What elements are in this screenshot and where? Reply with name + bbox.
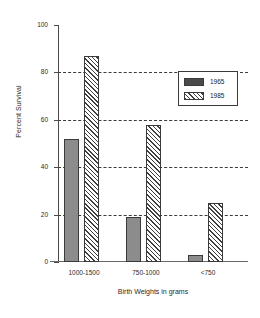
y-tick-label-80: 80 xyxy=(41,69,48,76)
legend-label-1965: 1965 xyxy=(210,78,224,85)
y-axis-line xyxy=(58,25,59,262)
bar-1985-1000-1500 xyxy=(84,56,99,262)
bar-chart: Percent Survival 100 80 60 40 20 0 xyxy=(0,0,260,318)
y-tick-label-60: 60 xyxy=(41,117,48,124)
bar-1965-under-750 xyxy=(188,255,203,262)
y-tick-label-40: 40 xyxy=(41,164,48,171)
bar-1985-750-1000 xyxy=(146,125,161,262)
hatched-swatch-icon xyxy=(184,92,204,100)
x-category-label-750-1000: 750-1000 xyxy=(116,269,176,276)
x-category-label-under-750: <750 xyxy=(178,269,238,276)
legend-label-1985: 1985 xyxy=(210,92,224,99)
legend-entry-1965: 1965 xyxy=(184,76,233,87)
y-tick-label-0: 0 xyxy=(44,259,48,266)
x-axis-title: Birth Weights in grams xyxy=(58,288,248,295)
y-tick-40: 40 xyxy=(54,167,59,168)
y-tick-label-100: 100 xyxy=(37,22,48,29)
legend-entry-1985: 1985 xyxy=(184,90,233,101)
plot-area: 100 80 60 40 20 0 1000-1500 xyxy=(58,25,248,262)
y-tick-label-20: 20 xyxy=(41,211,48,218)
y-tick-100: 100 xyxy=(54,25,59,26)
solid-swatch-icon xyxy=(184,78,204,86)
y-tick-60: 60 xyxy=(54,120,59,121)
y-tick-80: 80 xyxy=(54,72,59,73)
bar-1965-1000-1500 xyxy=(64,139,79,262)
bar-1965-750-1000 xyxy=(126,217,141,262)
y-tick-20: 20 xyxy=(54,215,59,216)
y-axis-title: Percent Survival xyxy=(15,52,22,172)
y-tick-0: 0 xyxy=(54,262,59,263)
legend: 1965 1985 xyxy=(178,71,238,106)
x-category-label-1000-1500: 1000-1500 xyxy=(54,269,114,276)
bar-1985-under-750 xyxy=(208,203,223,262)
